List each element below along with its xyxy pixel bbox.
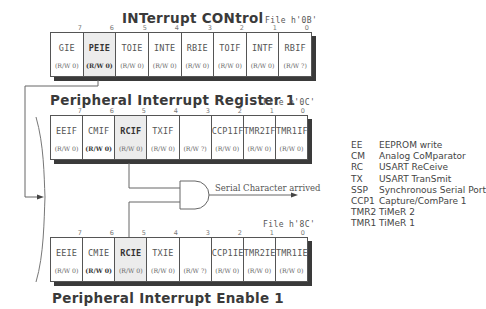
curly-brace-icon — [36, 117, 45, 282]
legend-row: TXUSART TranSmit — [351, 174, 486, 185]
rcif-wire — [129, 163, 180, 188]
legend-row: SSPSynchronous Serial Port — [351, 185, 486, 196]
legend-row: TMR2TiMeR 2 — [351, 207, 486, 218]
legend-row: RCUSART ReCeive — [351, 162, 486, 173]
and-gate-icon — [180, 181, 209, 209]
legend-row: EEEEPROM write — [351, 140, 486, 151]
legend-row: CCP1Capture/ComPare 1 — [351, 196, 486, 207]
legend-row: CMAnalog CoMparator — [351, 151, 486, 162]
peie-arrow-icon — [37, 195, 44, 200]
rcie-wire — [129, 202, 180, 237]
gate-output-arrow-icon — [291, 193, 298, 198]
peie-wire — [25, 80, 98, 197]
serial-character-arrived-label: Serial Character arrived — [215, 183, 320, 193]
abbreviation-legend: EEEEPROM write CMAnalog CoMparator RCUSA… — [351, 140, 486, 230]
legend-row: TMR1TiMeR 1 — [351, 218, 486, 229]
